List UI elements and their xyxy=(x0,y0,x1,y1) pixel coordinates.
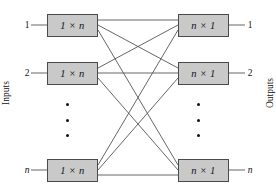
output-box-2[interactable]: n × 1 xyxy=(178,62,229,85)
outputs-axis-label: Outputs xyxy=(265,71,275,115)
input-port-label-1: 1 xyxy=(20,20,34,30)
connection-wires xyxy=(0,0,276,193)
input-box-1[interactable]: 1 × n xyxy=(47,14,98,37)
output-box-1[interactable]: n × 1 xyxy=(178,14,229,37)
output-port-label-2: 2 xyxy=(243,68,257,78)
input-port-label-n: n xyxy=(20,165,34,175)
output-port-label-n: n xyxy=(243,165,257,175)
input-box-n[interactable]: 1 × n xyxy=(47,159,98,182)
crossbar-switch-figure: 1 × n 1 × n 1 × n n × 1 n × 1 n × 1 1 2 … xyxy=(0,0,276,193)
input-port-label-2: 2 xyxy=(20,68,34,78)
output-box-n[interactable]: n × 1 xyxy=(178,159,229,182)
inputs-axis-label: Inputs xyxy=(1,71,11,115)
output-stage-ellipsis-icon xyxy=(197,103,200,137)
output-port-label-1: 1 xyxy=(243,20,257,30)
input-box-2[interactable]: 1 × n xyxy=(47,62,98,85)
input-stage-ellipsis-icon xyxy=(66,103,69,137)
